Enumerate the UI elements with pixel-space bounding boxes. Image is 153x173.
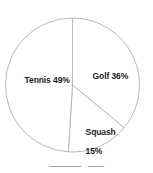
pie-label-tennis: Tennis 49% [11,66,70,95]
pie-label-golf-text: Golf 36% [93,71,129,81]
pie-label-golf: Golf 36% [79,62,128,91]
pie-label-squash-name: Squash [86,127,116,137]
pie-label-tennis-text: Tennis 49% [25,75,70,85]
chart-caption-clipped: ———— —— [0,166,153,173]
pie-chart: Tennis 49% Golf 36% Squash 15% [0,0,153,173]
pie-chart-screenshot: Tennis 49% Golf 36% Squash 15% ———— —— [0,0,153,173]
chart-caption-text: ———— —— [0,166,153,170]
pie-label-squash: Squash 15% [72,118,116,166]
pie-label-squash-value: 15% [86,146,103,156]
